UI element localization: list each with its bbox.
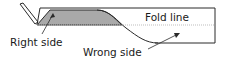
fold-diagram: Fold line Right side Wrong side bbox=[0, 0, 228, 62]
folded-flap bbox=[20, 3, 38, 24]
right-side-label: Right side bbox=[10, 36, 63, 48]
right-side-shaded-area bbox=[37, 10, 122, 25]
fold-line-label: Fold line bbox=[145, 11, 189, 23]
wrong-side-label: Wrong side bbox=[83, 46, 142, 58]
wrong-side-arrow bbox=[148, 33, 180, 49]
